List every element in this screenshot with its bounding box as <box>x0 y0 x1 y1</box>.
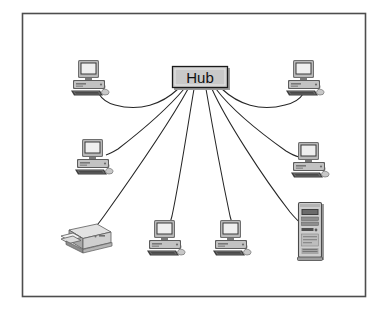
tower-server-icon <box>298 203 325 261</box>
network-topology-diagram: Hub <box>0 0 389 313</box>
hub-node[interactable]: Hub <box>173 67 231 91</box>
hub-label: Hub <box>186 69 214 86</box>
network-diagram-figure: Hub <box>0 0 389 313</box>
node-tower-bottom-right[interactable] <box>298 203 325 261</box>
